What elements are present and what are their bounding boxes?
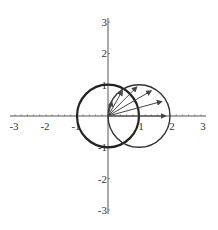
x-tick-label: -2 [40,120,49,132]
x-tick-label: -3 [9,120,19,132]
y-tick-label: -2 [98,173,107,185]
y-tick-label: -3 [98,204,108,216]
polar-diagram: -3 -2 -1 1 2 3 3 2 1 -1 -2 -3 [0,0,218,230]
vector-arrow [108,101,162,116]
x-tick-label: 3 [200,120,206,132]
y-tick-label: 2 [102,47,108,59]
y-tick-label: 3 [102,16,108,28]
